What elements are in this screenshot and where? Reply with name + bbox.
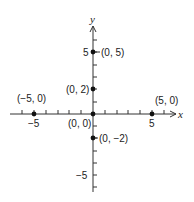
point-label-0-2: (0, 2) [66, 84, 89, 95]
point-label-0-0: (0, 0) [68, 118, 91, 129]
point-0-2 [91, 87, 96, 92]
point-0-5 [91, 50, 96, 55]
tick-label-y-neg5: −5 [76, 170, 88, 181]
tick-label-x-neg5: −5 [28, 118, 40, 129]
point-0-0 [91, 112, 96, 117]
x-axis-label: x [177, 108, 183, 120]
point-0-neg2 [91, 136, 96, 141]
tick-label-x-pos5: 5 [149, 118, 155, 129]
y-axis-label: y [89, 13, 95, 25]
point-label-5-0: (5, 0) [155, 95, 178, 106]
point-label-0-neg2: (0, −2) [99, 133, 128, 144]
point-label-neg5-0: (−5, 0) [17, 93, 46, 104]
point-5-0 [150, 112, 155, 117]
coordinate-plane: y x −5 5 5 −5 (0, 5) (0, 2) (−5, 0) (0, … [0, 0, 194, 202]
point-label-0-5: (0, 5) [101, 47, 124, 58]
tick-label-y-pos5: 5 [83, 47, 89, 58]
point-neg5-0 [32, 112, 37, 117]
